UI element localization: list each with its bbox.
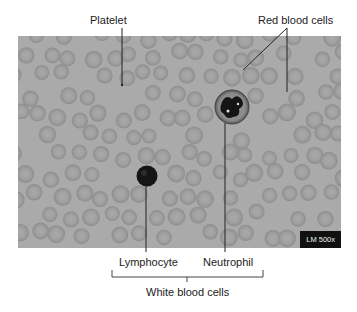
platelet-marker (121, 84, 123, 86)
leader-lines (0, 0, 357, 312)
lymphocyte-label: Lymphocyte (119, 256, 178, 268)
white-blood-cells-label: White blood cells (146, 286, 229, 298)
rbc-leader-line-a (243, 28, 287, 70)
white-blood-cells-bracket (112, 270, 263, 277)
neutrophil-label: Neutrophil (203, 256, 253, 268)
